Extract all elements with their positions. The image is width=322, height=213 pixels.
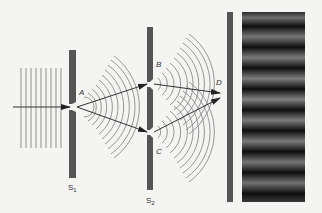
label-s1: S1 [68,183,77,193]
barrier-s1 [69,50,76,178]
interference-fringe-pattern [242,12,305,202]
wavefronts-from-slit-c [158,82,214,182]
screen-plate [227,12,233,202]
label-b: B [156,60,162,69]
label-c: C [156,147,162,156]
label-s2-sub: 2 [151,200,155,206]
label-s2: S2 [146,196,155,206]
wavefronts-from-slit-a [84,56,139,158]
wavefronts-from-slit-b [158,34,214,134]
label-d: D [216,78,222,87]
label-s1-sub: 1 [73,187,77,193]
plane-wavefronts [21,68,61,148]
label-a: A [78,88,84,97]
double-slit-diagram: A B C D S1 S2 [0,0,322,213]
barrier-s2 [147,27,153,190]
